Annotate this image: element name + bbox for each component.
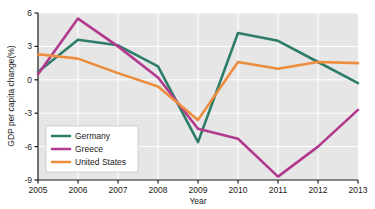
y-axis-tick-label: -9 bbox=[24, 175, 32, 185]
x-axis-title: Year bbox=[189, 196, 206, 206]
x-axis-tick-label: 2013 bbox=[349, 185, 368, 195]
chart-legend[interactable]: GermanyGreeceUnited States bbox=[46, 126, 138, 172]
y-axis-title: GDP per capita change(%) bbox=[6, 45, 16, 147]
x-axis-tick-label: 2009 bbox=[189, 185, 208, 195]
gdp-per-capita-line-chart: 630-3-6-9 200520062007200820092010201120… bbox=[0, 0, 375, 209]
x-axis-tick-label: 2006 bbox=[69, 185, 88, 195]
x-axis-tick-label: 2008 bbox=[149, 185, 168, 195]
y-axis-tick-label: 0 bbox=[27, 75, 32, 85]
y-axis-tick-label: -3 bbox=[24, 108, 32, 118]
x-axis-tick-label: 2010 bbox=[229, 185, 248, 195]
x-axis-tick-label: 2007 bbox=[109, 185, 128, 195]
x-axis-tick-label: 2012 bbox=[309, 185, 328, 195]
x-axis-tick-label: 2011 bbox=[269, 185, 288, 195]
chart-svg: 630-3-6-9 200520062007200820092010201120… bbox=[0, 0, 375, 209]
x-axis-tick-labels: 200520062007200820092010201120122013 bbox=[29, 185, 368, 195]
legend-label-united-states[interactable]: United States bbox=[75, 157, 126, 167]
legend-label-greece[interactable]: Greece bbox=[75, 144, 103, 154]
y-axis-tick-label: 6 bbox=[27, 8, 32, 18]
x-axis-tick-label: 2005 bbox=[29, 185, 48, 195]
y-axis-tick-label: -6 bbox=[24, 142, 32, 152]
y-axis-tick-label: 3 bbox=[27, 41, 32, 51]
legend-label-germany[interactable]: Germany bbox=[75, 131, 111, 141]
